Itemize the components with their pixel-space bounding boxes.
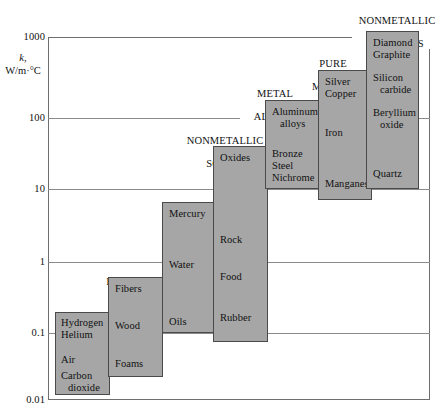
bar-item-fibers: Fibers — [115, 283, 142, 295]
bar-item-diamond: Diamond — [373, 37, 412, 49]
y-axis-units: W/m·°C — [0, 65, 46, 78]
bar-item-hydrogen: Hydrogen — [61, 317, 103, 329]
bar-insulators: Fibers Wood Foams — [108, 277, 163, 377]
bar-item-helium: Helium — [61, 329, 93, 341]
category-heading-nonmetallic-crystals-line1: NONMETALLIC — [359, 15, 436, 26]
y-tick-100-wrap: 100 — [0, 113, 45, 124]
y-tick-10: 10 — [1, 184, 45, 195]
bar-item-manganese: Manganese — [325, 178, 372, 190]
y-axis-symbol: k, — [0, 52, 46, 65]
y-tick-0.1: 0.1 — [1, 328, 45, 339]
bar-item-rock: Rock — [220, 234, 242, 246]
y-tick-1000: 1000 — [1, 32, 45, 43]
bar-metal-alloys: Aluminum alloys Bronze Steel Nichrome — [265, 100, 322, 189]
bar-item-oxides: Oxides — [220, 152, 250, 164]
category-heading-nonmetallic-solids-line1: NONMETALLIC — [187, 135, 264, 146]
y-tick-10-wrap: 10 — [0, 184, 45, 195]
bar-item-silver: Silver — [325, 76, 350, 88]
bar-gases: Hydrogen Helium Air Carbon dioxide — [55, 312, 110, 395]
bar-item-wood: Wood — [115, 320, 140, 332]
y-tick-0.01: 0.01 — [1, 395, 45, 406]
y-axis-title: k, W/m·°C — [0, 52, 46, 77]
bar-item-silicon-carbide: Silicon — [373, 72, 403, 84]
bar-item-copper: Copper — [325, 88, 356, 100]
category-heading-pure-metals-line1: PURE — [319, 58, 346, 69]
bar-item-mercury: Mercury — [169, 208, 206, 220]
bar-pure-metals: Silver Copper Iron Manganese — [318, 70, 372, 200]
bar-item-oils: Oils — [169, 316, 187, 328]
y-tick-0.1-wrap: 0.1 — [0, 328, 45, 339]
bar-item-carbon-dioxide-line2: dioxide — [68, 382, 100, 394]
bar-item-beryllium-oxide-line2: oxide — [380, 119, 404, 131]
bar-item-iron: Iron — [325, 127, 343, 139]
bar-item-rubber: Rubber — [220, 312, 251, 324]
y-tick-1-wrap: 1 — [0, 257, 45, 268]
bar-item-nichrome: Nichrome — [272, 172, 314, 184]
bar-item-graphite: Graphite — [373, 49, 410, 61]
bar-item-bronze: Bronze — [272, 148, 303, 160]
bar-item-air: Air — [61, 354, 75, 366]
bar-item-silicon-carbide-line2: carbide — [380, 84, 411, 96]
bar-liquids: Mercury Water Oils — [162, 202, 217, 333]
category-heading-metal-alloys-line1: METAL — [257, 88, 293, 99]
bar-item-aluminum-alloys-line2: alloys — [280, 118, 305, 130]
y-tick-1000-wrap: 1000 — [0, 32, 45, 43]
bar-item-steel: Steel — [272, 160, 293, 172]
y-tick-1: 1 — [1, 257, 45, 268]
bar-item-quartz: Quartz — [373, 168, 402, 180]
bar-item-carbon-dioxide: Carbon — [61, 370, 92, 382]
y-tick-100: 100 — [1, 113, 45, 124]
bar-item-water: Water — [169, 259, 194, 271]
bar-nonmetallic-crystals: Diamond Graphite Silicon carbide Berylli… — [366, 31, 419, 189]
bar-item-foams: Foams — [115, 358, 143, 370]
bar-nonmetallic-solids: Oxides Rock Food Rubber — [213, 146, 268, 342]
bar-item-beryllium-oxide: Beryllium — [373, 107, 416, 119]
thermal-conductivity-chart: k, W/m·°C 1000 100 10 1 0.1 0.01 GASES H… — [0, 0, 444, 420]
bar-item-food: Food — [220, 271, 242, 283]
bar-item-aluminum-alloys: Aluminum — [272, 106, 318, 118]
y-tick-0.01-wrap: 0.01 — [0, 395, 45, 406]
